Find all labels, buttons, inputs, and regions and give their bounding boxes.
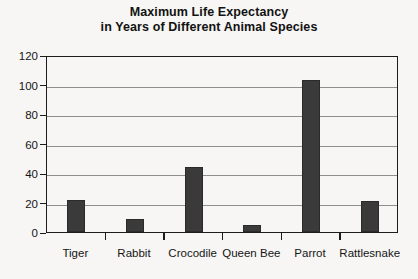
y-axis-tick-label: 20 bbox=[25, 197, 38, 211]
y-axis-tick-label: 60 bbox=[25, 138, 38, 152]
chart-title-line-1: Maximum Life Expectancy bbox=[0, 5, 418, 20]
x-axis-divider bbox=[339, 233, 340, 240]
x-axis-category-label: Parrot bbox=[281, 247, 340, 259]
y-axis-tick-label: 80 bbox=[25, 108, 38, 122]
bar-chart: Maximum Life Expectancy in Years of Diff… bbox=[0, 0, 418, 279]
bars-layer bbox=[47, 57, 397, 232]
x-axis-divider bbox=[163, 233, 164, 240]
x-axis-divider bbox=[105, 233, 106, 240]
x-axis-divider bbox=[222, 233, 223, 240]
x-axis-category-label: Crocodile bbox=[163, 247, 222, 259]
bar bbox=[67, 200, 85, 232]
bar bbox=[126, 219, 144, 232]
x-axis-divider bbox=[281, 233, 282, 240]
x-axis-category-label: Rattlesnake bbox=[339, 247, 398, 259]
chart-title-line-2: in Years of Different Animal Species bbox=[0, 20, 418, 35]
x-axis-category-label: Queen Bee bbox=[222, 247, 281, 259]
plot-area bbox=[46, 56, 398, 233]
chart-title: Maximum Life Expectancy in Years of Diff… bbox=[0, 5, 418, 35]
y-axis-tick-label: 100 bbox=[19, 79, 38, 93]
bar bbox=[243, 225, 261, 232]
x-axis-category-label: Rabbit bbox=[105, 247, 164, 259]
y-axis: 120100806040200 bbox=[0, 56, 46, 233]
bar bbox=[185, 167, 203, 232]
x-axis: TigerRabbitCrocodileQueen BeeParrotRattl… bbox=[46, 233, 398, 279]
bar bbox=[361, 201, 379, 232]
bar bbox=[302, 80, 320, 232]
x-axis-category-label: Tiger bbox=[46, 247, 105, 259]
y-axis-tick-label: 0 bbox=[32, 226, 38, 240]
y-axis-tick-label: 120 bbox=[19, 49, 38, 63]
y-axis-tick-label: 40 bbox=[25, 167, 38, 181]
